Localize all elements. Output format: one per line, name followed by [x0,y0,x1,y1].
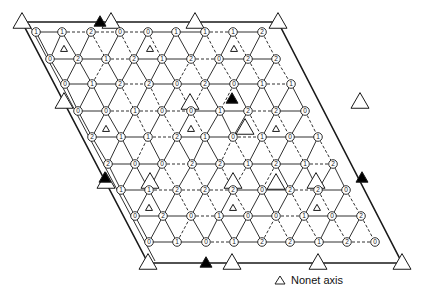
svg-text:0: 0 [63,80,67,87]
svg-text:2: 2 [274,160,278,167]
atom-node: 2 [329,160,338,169]
svg-text:0: 0 [48,55,52,62]
atom-node: 2 [201,80,210,89]
svg-text:0: 0 [260,186,264,193]
svg-text:2: 2 [218,160,222,167]
atom-node: 1 [158,55,167,64]
nonet-axis-icon [231,45,238,51]
svg-text:2: 2 [316,186,320,193]
atom-node: 1 [287,80,296,89]
svg-text:1: 1 [203,28,207,35]
filled-triangle-icon [200,257,212,267]
atom-node: 1 [117,186,126,195]
atom-node: 1 [216,107,225,116]
svg-text:2: 2 [118,80,122,87]
svg-text:0: 0 [246,212,250,219]
legend: Nonet axis [274,274,343,286]
atom-node: 2 [314,186,323,195]
atom-node: 2 [88,133,97,142]
atom-node: 0 [116,28,125,37]
svg-text:0: 0 [330,212,334,219]
atom-node: 1 [102,55,111,64]
svg-text:0: 0 [217,55,221,62]
atom-node: 2 [229,186,238,195]
atom-node: 0 [244,212,253,221]
svg-text:2: 2 [260,28,264,35]
svg-text:0: 0 [133,212,137,219]
svg-text:2: 2 [89,28,93,35]
atom-node: 1 [229,28,238,37]
atom-node: 1 [32,28,41,37]
svg-text:2: 2 [175,186,179,193]
atom-node: 0 [230,80,239,89]
svg-text:1: 1 [147,186,151,193]
atom-node: 2 [173,133,182,142]
svg-text:0: 0 [231,133,235,140]
svg-text:1: 1 [231,28,235,35]
atom-node: 2 [286,238,295,247]
svg-text:2: 2 [175,133,179,140]
svg-text:0: 0 [189,107,193,114]
svg-text:0: 0 [160,160,164,167]
atom-node: 1 [314,133,323,142]
open-triangle-icon [223,254,241,270]
svg-text:1: 1 [133,107,137,114]
atom-node: 0 [46,55,55,64]
atom-node: 0 [202,238,211,247]
atom-node: 0 [371,238,380,247]
svg-text:0: 0 [288,133,292,140]
svg-text:0: 0 [133,160,137,167]
svg-text:0: 0 [104,107,108,114]
atom-node: 0 [61,80,70,89]
atom-node: 1 [300,212,309,221]
atom-node: 0 [131,160,140,169]
svg-text:2: 2 [189,55,193,62]
svg-text:0: 0 [373,238,377,245]
svg-text:2: 2 [345,238,349,245]
svg-text:2: 2 [359,212,363,219]
filled-triangle-icon [226,93,238,103]
nonet-axis-icon [147,45,154,51]
atom-node: 1 [173,238,182,247]
svg-text:0: 0 [118,28,122,35]
svg-text:1: 1 [316,133,320,140]
svg-text:0: 0 [160,107,164,114]
atom-node: 2 [272,160,281,169]
atom-node: 0 [229,133,238,142]
atom-node: 0 [102,107,111,116]
svg-text:1: 1 [260,133,264,140]
svg-text:0: 0 [189,212,193,219]
atom-node: 1 [145,186,154,195]
atom-node: 1 [131,107,140,116]
nonet-axis-icon [314,204,321,210]
open-triangle-icon [274,275,286,285]
atom-node: 2 [216,160,225,169]
svg-text:2: 2 [231,186,235,193]
atom-node: 1 [88,80,97,89]
open-triangle-icon [351,93,369,109]
atom-node: 0 [258,186,267,195]
open-triangle-icon [269,13,287,29]
svg-text:2: 2 [260,238,264,245]
nonet-axis-icon [61,45,68,51]
svg-text:1: 1 [289,80,293,87]
svg-text:1: 1 [90,80,94,87]
svg-text:1: 1 [160,55,164,62]
lattice-diagram: 1120201001121220112202220110012120001121… [0,0,421,270]
svg-text:2: 2 [274,55,278,62]
nonet-axis-icon [273,125,280,131]
svg-text:0: 0 [204,238,208,245]
svg-text:2: 2 [76,55,80,62]
svg-text:1: 1 [174,28,178,35]
atom-node: 2 [145,80,154,89]
svg-text:0: 0 [232,80,236,87]
svg-text:2: 2 [203,186,207,193]
atom-node: 2 [104,160,113,169]
svg-text:2: 2 [288,186,292,193]
svg-text:1: 1 [217,212,221,219]
atom-node: 0 [144,28,153,37]
svg-text:2: 2 [246,107,250,114]
svg-text:1: 1 [119,133,123,140]
atom-node: 2 [87,28,96,37]
svg-text:0: 0 [344,186,348,193]
